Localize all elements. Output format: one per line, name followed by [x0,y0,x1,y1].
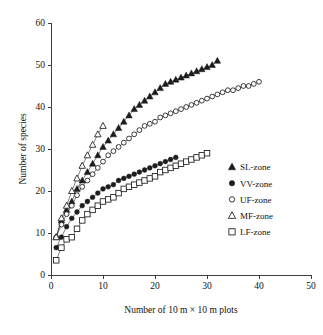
marker-open-circle [95,166,100,171]
marker-open-circle [189,103,194,108]
y-tick-label: 40 [36,102,46,112]
marker-filled-circle [101,187,106,192]
marker-open-square [79,218,85,224]
x-tick-label: 30 [202,281,212,291]
marker-open-circle [64,212,69,217]
marker-open-square [53,258,59,264]
legend: SL-zoneVV-zoneUF-zoneMF-zoneLF-zone [228,162,273,237]
marker-open-circle [241,84,246,89]
marker-open-square [152,174,158,180]
marker-filled-circle [173,155,178,160]
x-axis-title: Number of 10 m × 10 m plots [124,305,238,315]
marker-filled-triangle [84,169,90,175]
marker-filled-circle [95,191,100,196]
marker-open-square [131,182,137,188]
marker-open-circle [251,82,256,87]
marker-open-square [100,199,106,205]
marker-filled-circle [132,172,137,177]
legend-label: UF-zone [240,195,272,205]
marker-open-triangle [95,131,101,137]
marker-open-triangle [89,141,95,147]
legend-label: SL-zone [240,162,271,172]
marker-open-circle [137,128,142,133]
marker-open-triangle [74,175,80,181]
marker-open-square [111,195,117,201]
x-tick-label: 40 [254,281,264,291]
marker-open-square [178,161,184,167]
marker-filled-circle [90,195,95,200]
marker-filled-circle [153,163,158,168]
marker-filled-circle [121,176,126,181]
marker-open-circle [231,88,236,93]
marker-filled-circle [75,210,80,215]
marker-filled-circle [85,199,90,204]
marker-open-square [163,167,169,173]
legend-label: MF-zone [240,211,273,221]
marker-open-circle [111,149,116,154]
marker-open-circle [158,115,163,120]
marker-open-circle [127,136,132,141]
marker-filled-circle [142,168,147,173]
marker-open-circle [142,124,147,129]
marker-filled-circle [229,181,234,186]
marker-open-circle [199,98,204,103]
marker-filled-circle [137,170,142,175]
marker-open-circle [101,159,106,164]
marker-open-square [126,184,132,190]
x-tick-label: 10 [98,281,108,291]
legend-entry-uf-zone: UF-zone [229,195,271,205]
marker-filled-circle [127,174,132,179]
series-line [56,61,217,237]
marker-open-circle [225,88,230,93]
marker-open-circle [210,94,215,99]
marker-open-square [189,157,195,163]
marker-filled-circle [163,159,168,164]
marker-open-square [74,226,80,232]
marker-open-triangle [79,162,85,168]
axis-lines [51,23,311,275]
marker-filled-triangle [228,163,235,170]
marker-open-square [157,169,163,175]
marker-open-circle [90,172,95,177]
marker-open-circle [116,145,121,150]
marker-open-square [229,229,235,235]
marker-open-circle [121,140,126,145]
marker-open-square [183,159,189,165]
chart-canvas: 010203040506001020304050 Number of 10 m … [0,0,323,335]
marker-filled-circle [147,166,152,171]
x-tick-label: 20 [150,281,160,291]
y-tick-label: 50 [36,60,46,70]
marker-open-square [85,211,91,217]
marker-open-circle [229,197,234,202]
marker-filled-circle [116,178,121,183]
marker-open-circle [220,90,225,95]
marker-open-circle [147,121,152,126]
series-markers [53,150,209,263]
marker-filled-circle [111,182,116,187]
marker-filled-circle [168,157,173,162]
marker-open-circle [184,105,189,110]
legend-entry-mf-zone: MF-zone [228,211,273,221]
marker-open-square [194,155,200,161]
y-tick-label: 20 [36,186,46,196]
marker-open-circle [80,184,85,189]
marker-open-square [199,153,205,159]
x-tick-label: 50 [306,281,316,291]
marker-filled-triangle [89,160,95,166]
legend-entry-sl-zone: SL-zone [228,162,270,172]
marker-filled-triangle [95,152,101,158]
marker-open-circle [215,92,220,97]
marker-open-square [59,245,65,251]
marker-open-square [116,190,122,196]
marker-filled-circle [106,184,111,189]
marker-filled-circle [158,161,163,166]
series-lf-zone [53,150,209,263]
marker-open-circle [257,79,262,84]
y-tick-label: 10 [36,228,46,238]
marker-filled-circle [64,224,69,229]
marker-open-circle [163,113,168,118]
series-line [56,153,207,260]
marker-filled-triangle [74,185,80,191]
marker-open-triangle [84,152,90,158]
x-tick-label: 0 [49,281,54,291]
